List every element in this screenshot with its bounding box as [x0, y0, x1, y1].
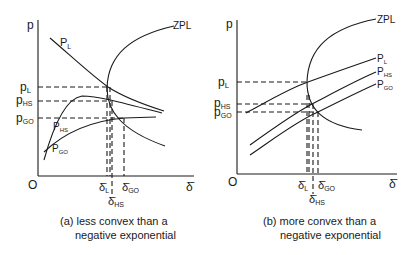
guide-lines — [237, 82, 318, 194]
phs-curve-label: PHS — [377, 66, 392, 78]
y-tick-pl: pL — [218, 75, 230, 90]
panel-b-labels: p O δ̄ ZPL PL PHS PGO pL pHS pGO δ̄L δ̄H… — [214, 14, 398, 241]
x-tick-dgo: δ̄GO — [122, 181, 140, 194]
x-tick-dgo: δ̄GO — [318, 179, 336, 192]
caption-line2: negative exponential — [280, 229, 381, 241]
caption-line1: (a) less convex than a — [60, 215, 168, 227]
pgo-curve-label: PGO — [377, 79, 393, 91]
panel-b — [237, 19, 397, 194]
y-axis-label: p — [27, 18, 34, 32]
x-tick-dhs: δ̄HS — [309, 193, 325, 206]
pgo-curve-label: PGO — [52, 143, 68, 155]
origin-label: O — [28, 178, 37, 192]
panel-a-labels: p O δ̄ ZPL PL PHS PGO pL pHS pGO δ̄L δ̄H… — [16, 18, 195, 241]
pl-curve-label: PL — [377, 53, 388, 65]
zpl-curve — [107, 26, 174, 146]
x-tick-dl: δ̄L — [99, 181, 109, 194]
x-tick-dhs: δ̄HS — [108, 195, 124, 208]
pl-curve-label: PL — [60, 36, 71, 50]
zpl-label: ZPL — [173, 20, 192, 31]
zpl-curve — [307, 19, 376, 130]
y-tick-phs: pHS — [16, 93, 33, 107]
phs-curve-label: PHS — [53, 121, 68, 133]
caption-line1: (b) more convex than a — [263, 215, 377, 227]
x-tick-dl: δ̄L — [298, 179, 308, 192]
caption-line2: negative exponential — [75, 229, 176, 241]
guide-lines — [38, 87, 124, 196]
y-tick-pgo: pGO — [16, 111, 34, 125]
x-axis-label: δ̄ — [389, 177, 398, 191]
origin-label: O — [228, 175, 237, 189]
zpl-label: ZPL — [377, 14, 396, 25]
x-axis-label: δ̄ — [186, 180, 195, 194]
y-axis-label: p — [226, 17, 233, 31]
diagram-canvas: p O δ̄ ZPL PL PHS PGO pL pHS pGO δ̄L δ̄H… — [0, 0, 417, 255]
